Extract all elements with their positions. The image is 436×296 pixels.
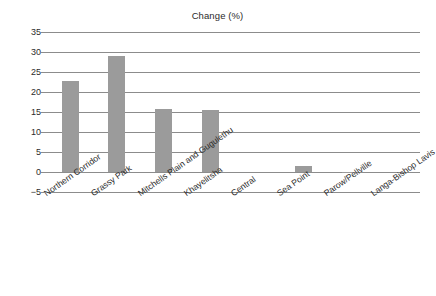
gridline [47,32,420,33]
bar [62,81,79,172]
y-axis-tick-mark [41,192,47,193]
plot-area [47,32,420,192]
y-axis-tick-mark [41,132,47,133]
bar [202,110,219,172]
y-axis-tick-mark [41,112,47,113]
gridline [47,92,420,93]
gridline [47,52,420,53]
y-axis-tick-mark [41,152,47,153]
y-axis-tick-label: 30 [7,47,41,57]
gridline [47,172,420,173]
y-axis-tick-label: 25 [7,67,41,77]
gridline [47,152,420,153]
chart-title: Change (%) [0,10,435,21]
y-axis-tick-mark [41,172,47,173]
gridline [47,132,420,133]
y-axis-tick-label: 0 [7,167,41,177]
bar [295,166,312,172]
y-axis-tick-label: 10 [7,127,41,137]
y-axis-tick-label: 5 [7,147,41,157]
gridline [47,72,420,73]
bar [342,172,359,173]
y-axis-tick-labels: −505101520253035 [5,32,41,192]
y-axis-tick-label: 20 [7,87,41,97]
gridline [47,112,420,113]
bar [108,56,125,172]
gridline [47,192,420,193]
y-axis-tick-mark [41,72,47,73]
y-axis-tick-label: 15 [7,107,41,117]
y-axis-tick-mark [41,32,47,33]
y-axis-tick-mark [41,92,47,93]
bar [155,109,172,172]
y-axis-tick-label: −5 [7,187,41,197]
y-axis-tick-label: 35 [7,27,41,37]
y-axis-tick-mark [41,52,47,53]
